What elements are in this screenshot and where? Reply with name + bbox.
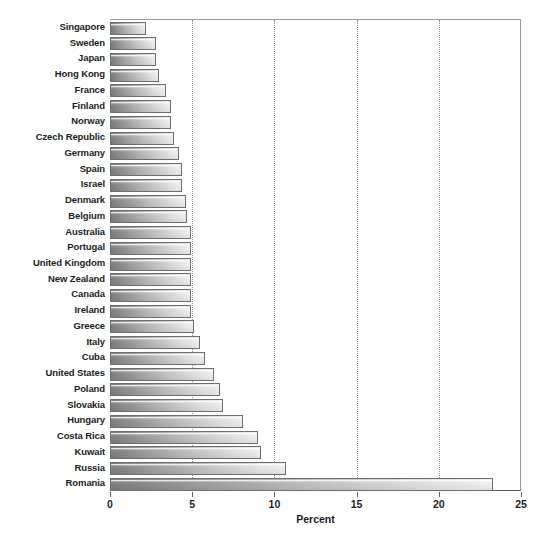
category-label: Czech Republic [0, 129, 105, 145]
x-tick-label: 0 [107, 498, 113, 510]
bar[interactable] [110, 336, 200, 349]
bar-row [110, 476, 520, 492]
category-label: Australia [0, 224, 105, 240]
x-tick-label: 25 [515, 498, 527, 510]
value-axis: 0510152025 [110, 492, 521, 514]
category-label: Denmark [0, 192, 105, 208]
bar-row [110, 20, 520, 36]
bar-row [110, 67, 520, 83]
bar[interactable] [110, 163, 182, 176]
plot-area [110, 19, 521, 491]
bar-row [110, 445, 520, 461]
bar-row [110, 36, 520, 52]
category-label: Japan [0, 50, 105, 66]
bar-row [110, 272, 520, 288]
category-label: Israel [0, 176, 105, 192]
bar[interactable] [110, 195, 186, 208]
bar-row [110, 99, 520, 115]
category-label: New Zealand [0, 271, 105, 287]
bar-row [110, 209, 520, 225]
category-label: Finland [0, 98, 105, 114]
bar-row [110, 398, 520, 414]
x-tick-mark [357, 492, 358, 497]
bar[interactable] [110, 415, 243, 428]
x-tick-mark [192, 492, 193, 497]
bar[interactable] [110, 446, 261, 459]
bar-row [110, 240, 520, 256]
bar-row [110, 193, 520, 209]
category-label: France [0, 82, 105, 98]
category-label: Germany [0, 145, 105, 161]
bar[interactable] [110, 53, 156, 66]
bar[interactable] [110, 305, 191, 318]
category-axis: SingaporeSwedenJapanHong KongFranceFinla… [0, 19, 105, 491]
bar-row [110, 162, 520, 178]
bar-row [110, 287, 520, 303]
bar[interactable] [110, 320, 194, 333]
bar-row [110, 177, 520, 193]
bar-row [110, 382, 520, 398]
bar[interactable] [110, 383, 220, 396]
bar-row [110, 350, 520, 366]
bar[interactable] [110, 84, 166, 97]
bar[interactable] [110, 368, 214, 381]
category-label: Hungary [0, 412, 105, 428]
bar[interactable] [110, 258, 191, 271]
bar-row [110, 366, 520, 382]
bars-layer [110, 20, 520, 490]
bar[interactable] [110, 179, 182, 192]
category-label: Costa Rica [0, 428, 105, 444]
bar[interactable] [110, 69, 159, 82]
category-label: Cuba [0, 349, 105, 365]
bar-row [110, 429, 520, 445]
x-tick-label: 15 [351, 498, 363, 510]
bar[interactable] [110, 352, 205, 365]
bar-row [110, 83, 520, 99]
bar[interactable] [110, 242, 191, 255]
category-label: Poland [0, 381, 105, 397]
category-label: Canada [0, 286, 105, 302]
x-tick-label: 20 [433, 498, 445, 510]
category-label: Ireland [0, 302, 105, 318]
bar-row [110, 225, 520, 241]
bar-row [110, 303, 520, 319]
category-label: Greece [0, 318, 105, 334]
category-label: Singapore [0, 19, 105, 35]
category-label: Portugal [0, 239, 105, 255]
bar[interactable] [110, 147, 179, 160]
bar-row [110, 319, 520, 335]
bar-row [110, 461, 520, 477]
bar-chart: SingaporeSwedenJapanHong KongFranceFinla… [0, 0, 555, 538]
category-label: United States [0, 365, 105, 381]
bar[interactable] [110, 132, 174, 145]
bar[interactable] [110, 37, 156, 50]
bar[interactable] [110, 100, 171, 113]
category-label: Belgium [0, 208, 105, 224]
bar[interactable] [110, 226, 191, 239]
x-axis-title: Percent [110, 513, 521, 525]
category-label: Romania [0, 475, 105, 491]
bar[interactable] [110, 289, 191, 302]
x-tick-mark [521, 492, 522, 497]
bar-row [110, 130, 520, 146]
bar[interactable] [110, 399, 223, 412]
x-tick-mark [274, 492, 275, 497]
category-label: Kuwait [0, 444, 105, 460]
bar-row [110, 256, 520, 272]
bar[interactable] [110, 116, 171, 129]
bar[interactable] [110, 22, 146, 35]
bar-row [110, 413, 520, 429]
bar[interactable] [110, 273, 191, 286]
category-label: Slovakia [0, 397, 105, 413]
x-tick-label: 5 [189, 498, 195, 510]
bar[interactable] [110, 478, 493, 491]
category-label: Sweden [0, 35, 105, 51]
x-tick-mark [439, 492, 440, 497]
bar[interactable] [110, 462, 286, 475]
category-label: United Kingdom [0, 255, 105, 271]
bar[interactable] [110, 210, 187, 223]
category-label: Russia [0, 460, 105, 476]
bar-row [110, 335, 520, 351]
bar[interactable] [110, 431, 258, 444]
bar-row [110, 51, 520, 67]
